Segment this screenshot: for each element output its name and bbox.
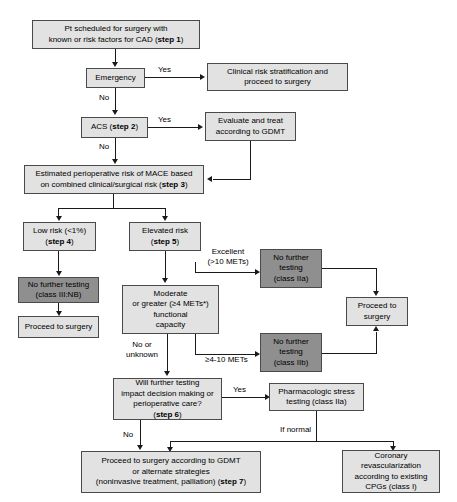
- edge-emergency-no: [115, 88, 116, 110]
- edge-label-no-or-unknown: No or unknown: [120, 340, 164, 359]
- node-step6-line2: impact decision making or: [121, 389, 213, 398]
- node-step7-line2: or alternate strategies: [132, 467, 209, 476]
- node-step7-line1: Proceed to surgery according to GDMT: [101, 456, 240, 465]
- node-step1: Pt scheduled for surgery with known or r…: [32, 20, 200, 49]
- edge-mets4to10-vert: [195, 334, 196, 355]
- edge-no-or-unknown: [167, 334, 168, 371]
- node-coronary-revascularization: Coronary revascularization according to …: [342, 450, 440, 493]
- edge-step1-to-emergency: [115, 49, 116, 63]
- node-step6-line4-post: ): [179, 410, 182, 419]
- edge-label-emergency-no: No: [99, 93, 109, 103]
- edge-label-acs-no: No: [99, 142, 109, 152]
- node-clinical-risk-stratification: Clinical risk stratification and proceed…: [207, 63, 348, 91]
- node-step1-line1: Pt scheduled for surgery with: [64, 24, 167, 33]
- node-no-testing-iib-line1: No further: [273, 337, 309, 346]
- edge-step6-no: [140, 420, 141, 446]
- edge-pharm-stem: [316, 411, 317, 442]
- node-no-further-testing-iiinb: No further testing (class III:NB): [18, 277, 99, 303]
- node-elevated-risk-line2-bold: step 5: [153, 237, 176, 246]
- edge-iib-to-proceed-horz: [322, 353, 377, 354]
- edge-iib-to-proceed-vert: [376, 332, 377, 354]
- arrowhead-step6-no: [137, 445, 143, 450]
- node-step6-line4-bold: step 6: [156, 410, 179, 419]
- edge-label-excellent-line2: (>10 METs): [207, 257, 248, 266]
- node-proceed-to-surgery-low-label: Proceed to surgery: [22, 322, 95, 333]
- node-step6: Will further testing impact decision mak…: [113, 378, 222, 420]
- node-step3-line2-pre: on combined clinical/surgical risk (: [40, 180, 161, 189]
- edge-iia-to-proceed-horz: [322, 268, 377, 269]
- edge-pharm-split-bar: [170, 441, 394, 442]
- edge-step3-split-bar: [58, 208, 166, 209]
- node-no-testing-iiinb-line1: No further testing: [28, 280, 89, 289]
- node-no-testing-iiinb-line2: (class III:NB): [36, 290, 82, 299]
- node-proceed-to-surgery-low: Proceed to surgery: [18, 316, 99, 338]
- node-proceed-to-surgery-right: Proceed to surgery: [346, 297, 408, 326]
- node-proceed-right-line1: Proceed to: [358, 301, 397, 310]
- node-evaluate-gdmt-line1: Evaluate and treat: [218, 116, 283, 125]
- node-pharm-stress-line1: Pharmacologic stress: [278, 387, 354, 396]
- node-step1-line2-bold: step 1: [158, 35, 181, 44]
- node-step7: Proceed to surgery according to GDMT or …: [81, 451, 261, 493]
- arrowhead-step3-to-elevated: [162, 216, 168, 221]
- node-step1-line2-pre: known or risk factors for CAD (: [49, 35, 158, 44]
- node-no-further-testing-iia: No further testing (class IIa): [260, 249, 322, 288]
- node-step6-line1: Will further testing: [135, 378, 199, 387]
- node-coronary-line1: Coronary: [375, 451, 408, 460]
- edge-label-excellent-line1: Excellent: [212, 247, 244, 256]
- edge-label-mets-4-10: ≥4-10 METs: [205, 355, 248, 365]
- arrowhead-iia-to-proceed: [373, 291, 379, 296]
- edge-emergency-yes: [145, 77, 201, 78]
- edge-label-no-or-unknown-line1: No or: [132, 340, 152, 349]
- perioperative-cardiac-assessment-flowchart: Pt scheduled for surgery with known or r…: [0, 0, 457, 502]
- node-emergency: Emergency: [86, 68, 145, 88]
- edge-iia-to-proceed-vert: [376, 268, 377, 291]
- node-moderate-line4: capacity: [156, 320, 185, 329]
- edge-step3-stem: [113, 194, 114, 209]
- node-clinical-risk-line1: Clinical risk stratification and: [227, 67, 328, 76]
- node-moderate-line3: functional: [153, 310, 187, 319]
- arrowhead-emergency-no: [112, 110, 118, 115]
- node-no-testing-iib-line3: (class IIb): [274, 358, 309, 367]
- node-acs: ACS (step 2): [81, 117, 148, 138]
- node-elevated-risk-line1: Elevated risk: [142, 226, 188, 235]
- edge-excellent-horz: [195, 272, 259, 273]
- edge-acs-no: [115, 138, 116, 159]
- arrowhead-emergency-yes: [200, 74, 205, 80]
- arrowhead-acs-no: [112, 159, 118, 164]
- node-step3-line2-post: ): [185, 180, 188, 189]
- node-acs-pre: ACS (: [91, 122, 112, 131]
- node-low-risk: Low risk (<1%) (step 4): [23, 222, 96, 251]
- node-low-risk-line2-post: ): [71, 237, 74, 246]
- edge-label-no-or-unknown-line2: unknown: [126, 350, 158, 359]
- node-moderate-functional-capacity: Moderate or greater (≥4 METs*) functiona…: [122, 285, 219, 334]
- node-step3-line2-bold: step 3: [162, 180, 185, 189]
- edge-label-step6-no: No: [123, 430, 133, 440]
- node-step6-line3: perioperative care?: [133, 399, 201, 408]
- node-step1-line2-post: ): [181, 35, 184, 44]
- edge-label-emergency-yes: Yes: [158, 65, 171, 75]
- node-elevated-risk-line2-post: ): [177, 237, 180, 246]
- edge-elevated-to-moderate: [165, 251, 166, 278]
- arrowhead-iib-to-proceed: [373, 326, 379, 331]
- edge-evaluate-to-step3-horz: [213, 179, 251, 180]
- node-step7-line3-bold: step 7: [220, 477, 243, 486]
- arrowhead-evaluate-to-step3: [207, 176, 212, 182]
- arrowhead-no-or-unknown: [164, 371, 170, 376]
- node-elevated-risk: Elevated risk (step 5): [129, 222, 201, 251]
- node-evaluate-gdmt: Evaluate and treat according to GDMT: [205, 112, 296, 141]
- node-evaluate-gdmt-line2: according to GDMT: [216, 127, 285, 136]
- node-no-testing-iia-line3: (class IIa): [274, 274, 309, 283]
- edge-label-acs-yes: Yes: [158, 115, 171, 125]
- edge-lowrisk-to-notesting: [58, 251, 59, 271]
- node-acs-bold: step 2: [112, 122, 135, 131]
- node-low-risk-line2-bold: step 4: [48, 237, 71, 246]
- node-no-testing-iia-line2: testing: [279, 263, 303, 272]
- node-no-testing-iib-line2: testing: [279, 347, 303, 356]
- edge-label-excellent: Excellent (>10 METs): [196, 247, 260, 266]
- node-moderate-line2: or greater (≥4 METs*): [132, 299, 208, 308]
- arrowhead-lowrisk-to-notesting: [56, 271, 62, 276]
- node-emergency-label: Emergency: [90, 73, 141, 84]
- arrowhead-step1-to-emergency: [112, 62, 118, 67]
- edge-evaluate-to-step3-vert: [250, 141, 251, 180]
- node-no-further-testing-iib: No further testing (class IIb): [260, 333, 322, 372]
